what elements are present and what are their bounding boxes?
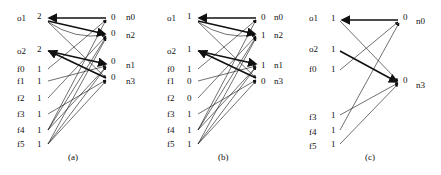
node-label-n3: n3 <box>126 76 135 86</box>
node-label-f0: f0 <box>167 64 175 74</box>
node-value-o2: 1 <box>331 44 336 54</box>
panel-b: o1 1 o2 1 f0 1 f1 0 f2 0 f3 1 f4 1 f5 1 … <box>150 0 300 175</box>
node-value-n0: 0 <box>261 12 266 22</box>
node-value-n3: 0 <box>261 76 266 86</box>
node-label-o2: o2 <box>167 46 176 56</box>
node-value-o1: 2 <box>37 11 42 21</box>
node-value-n3: 0 <box>111 72 116 82</box>
node-label-n0: n0 <box>416 16 425 26</box>
panel-c: o1 1 o2 1 f0 1 f3 1 f4 1 f5 1 0 n0 0 n3 … <box>290 0 441 175</box>
node-label-n0: n0 <box>274 12 283 22</box>
node-value-f0: 1 <box>187 64 192 74</box>
node-value-f1: 0 <box>187 76 192 86</box>
node-value-f4: 1 <box>187 125 192 135</box>
node-value-n2: 0 <box>111 28 116 38</box>
caption-c: (c) <box>365 152 375 162</box>
node-label-f0: f0 <box>17 64 25 74</box>
node-value-n3: 0 <box>403 75 408 85</box>
node-value-f4: 1 <box>37 125 42 135</box>
node-label-f1: f1 <box>167 76 175 86</box>
node-value-o2: 1 <box>187 44 192 54</box>
node-value-o2: 2 <box>37 44 42 54</box>
node-value-f2: 1 <box>37 93 42 103</box>
node-label-n3: n3 <box>416 80 425 90</box>
node-label-f1: f1 <box>17 76 25 86</box>
node-label-n1: n1 <box>274 60 283 70</box>
node-label-o1: o1 <box>167 13 176 23</box>
node-label-f2: f2 <box>17 93 25 103</box>
node-label-o2: o2 <box>309 44 318 54</box>
node-value-o1: 1 <box>187 11 192 21</box>
node-label-f4: f4 <box>17 125 25 135</box>
caption-a: (a) <box>68 152 78 162</box>
node-label-f0: f0 <box>309 64 317 74</box>
node-value-f5: 1 <box>331 139 336 149</box>
node-label-f2: f2 <box>167 93 175 103</box>
node-value-f5: 1 <box>37 139 42 149</box>
node-label-n2: n2 <box>126 30 135 40</box>
node-value-f5: 1 <box>187 139 192 149</box>
node-label-f3: f3 <box>17 109 25 119</box>
node-value-o1: 1 <box>331 13 336 23</box>
node-label-n0: n0 <box>126 12 135 22</box>
node-value-f0: 1 <box>37 64 42 74</box>
node-label-o1: o1 <box>309 13 318 23</box>
node-label-f5: f5 <box>167 139 175 149</box>
node-value-n2: 1 <box>261 30 266 40</box>
node-value-n0: 0 <box>111 12 116 22</box>
node-label-n3: n3 <box>274 76 283 86</box>
node-value-f4: 1 <box>331 125 336 135</box>
node-label-n1: n1 <box>126 60 135 70</box>
node-value-n0: 0 <box>403 12 408 22</box>
node-value-f3: 1 <box>331 110 336 120</box>
node-label-f3: f3 <box>309 112 317 122</box>
node-value-f0: 1 <box>331 64 336 74</box>
node-value-f2: 0 <box>187 93 192 103</box>
node-label-f3: f3 <box>167 109 175 119</box>
node-value-f3: 1 <box>187 109 192 119</box>
node-label-f4: f4 <box>167 125 175 135</box>
node-value-f1: 1 <box>37 76 42 86</box>
node-label-f4: f4 <box>309 127 317 137</box>
node-value-n1: 1 <box>261 60 266 70</box>
node-label-n2: n2 <box>274 30 283 40</box>
node-label-o2: o2 <box>17 46 26 56</box>
node-value-n1: 0 <box>111 56 116 66</box>
node-label-o1: o1 <box>17 13 26 23</box>
panel-a: o1 2 o2 2 f0 1 f1 1 f2 1 f3 1 f4 1 f5 1 … <box>0 0 150 175</box>
node-value-f3: 1 <box>37 109 42 119</box>
node-label-f5: f5 <box>309 141 317 151</box>
node-label-f5: f5 <box>17 139 25 149</box>
caption-b: (b) <box>218 152 229 162</box>
